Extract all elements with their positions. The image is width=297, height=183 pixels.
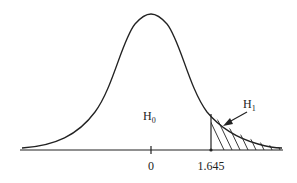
arrowhead-icon [223, 118, 233, 126]
tick-label-zero: 0 [148, 159, 154, 173]
h0-label: H0 [143, 109, 156, 125]
tick-critical-dot [209, 148, 212, 151]
h1-label: H1 [243, 97, 256, 113]
tick-label-critical: 1.645 [198, 159, 225, 173]
rejection-region-hatch [205, 110, 289, 152]
bell-curve [22, 14, 282, 148]
h1-arrow [229, 112, 247, 122]
normal-distribution-diagram: H0 H1 0 1.645 [0, 0, 297, 183]
